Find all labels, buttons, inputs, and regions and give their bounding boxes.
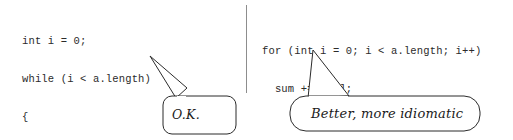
code-line: int i = 0; xyxy=(22,35,151,48)
callout-better: Better, more idiomatic xyxy=(286,44,486,136)
callout-better-pointer xyxy=(308,50,349,98)
callout-better-label: Better, more idiomatic xyxy=(311,106,463,121)
code-line: while (i < a.length) xyxy=(22,73,151,86)
callout-ok-shape xyxy=(146,52,250,140)
code-comparison-figure: int i = 0; while (i < a.length) { sum +=… xyxy=(0,0,513,140)
code-line: { xyxy=(22,111,151,124)
code-block-while-loop: int i = 0; while (i < a.length) { sum +=… xyxy=(22,10,151,140)
callout-ok-label: O.K. xyxy=(172,107,200,122)
callout-ok: O.K. xyxy=(146,52,250,140)
callout-ok-pointer xyxy=(150,56,187,98)
callout-better-shape xyxy=(286,44,486,136)
